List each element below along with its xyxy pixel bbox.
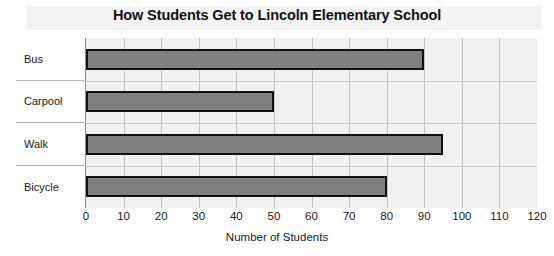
- x-tick-label: 20: [155, 210, 168, 222]
- bar-walk: [86, 134, 443, 155]
- x-tick-label: 10: [117, 210, 130, 222]
- gridline-horizontal: [86, 81, 537, 82]
- x-tick-label: 90: [418, 210, 431, 222]
- x-axis-ticks: 0102030405060708090100110120: [0, 210, 554, 230]
- category-label-panel: Bus Carpool Walk Bicycle: [16, 38, 86, 208]
- x-tick-label: 120: [527, 210, 546, 222]
- x-tick-label: 60: [305, 210, 318, 222]
- category-label: Carpool: [16, 95, 63, 107]
- x-tick-label: 110: [490, 210, 508, 222]
- x-tick-label: 50: [268, 210, 281, 222]
- category-label: Bus: [16, 53, 43, 65]
- x-tick-label: 70: [343, 210, 356, 222]
- x-tick-label: 40: [230, 210, 243, 222]
- gridline-horizontal: [86, 166, 537, 167]
- x-tick-label: 30: [192, 210, 205, 222]
- plot-area: [86, 38, 537, 208]
- bar-bus: [86, 49, 424, 70]
- chart-page: How Students Get to Lincoln Elementary S…: [0, 0, 554, 256]
- bar-bicycle: [86, 176, 387, 197]
- x-tick-label: 80: [380, 210, 393, 222]
- chart-title: How Students Get to Lincoln Elementary S…: [0, 7, 554, 23]
- category-label: Walk: [16, 138, 48, 150]
- x-tick-label: 100: [452, 210, 471, 222]
- x-axis-label: Number of Students: [0, 231, 554, 243]
- category-label-cell: Carpool: [16, 81, 86, 124]
- category-label-cell: Bus: [16, 38, 86, 81]
- category-label-cell: Walk: [16, 123, 86, 166]
- gridline-horizontal: [86, 123, 537, 124]
- category-label: Bicycle: [16, 181, 59, 193]
- bar-carpool: [86, 91, 274, 112]
- category-label-cell: Bicycle: [16, 166, 86, 209]
- x-tick-label: 0: [83, 210, 89, 222]
